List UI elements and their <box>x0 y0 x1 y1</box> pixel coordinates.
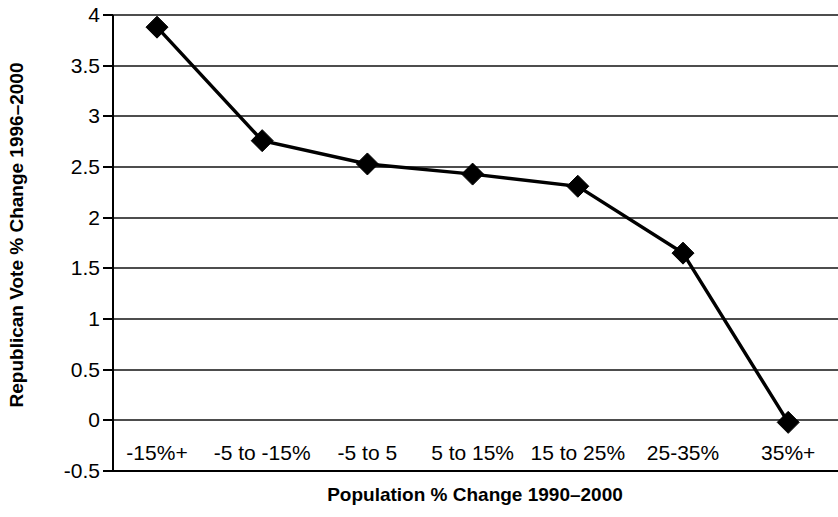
y-axis-tick-label: 3 <box>88 104 100 128</box>
x-axis-title: Population % Change 1990–2000 <box>112 484 838 506</box>
y-axis-tick-label: 4 <box>88 3 100 27</box>
x-axis-tick-labels: -15%+-5 to -15%-5 to 55 to 15%15 to 25%2… <box>112 441 838 471</box>
y-axis-tick-label: 1 <box>88 307 100 331</box>
x-axis-tick-label: -5 to -15% <box>214 441 311 465</box>
data-series <box>112 0 838 517</box>
data-point-marker <box>567 175 589 197</box>
y-axis-tick-label: 1.5 <box>71 256 100 280</box>
data-point-marker <box>356 153 378 175</box>
series-line <box>157 27 788 422</box>
y-axis-tick-label: 0 <box>88 408 100 432</box>
plot-area: -15%+-5 to -15%-5 to 55 to 15%15 to 25%2… <box>112 0 838 517</box>
y-axis-tick-label: 3.5 <box>71 54 100 78</box>
y-axis-tick-label: 0.5 <box>71 358 100 382</box>
x-axis-tick-label: 35%+ <box>761 441 815 465</box>
data-point-marker <box>462 163 484 185</box>
x-axis-tick-label: -15%+ <box>126 441 187 465</box>
y-axis-tick-labels: 43.532.521.510.50-0.5 <box>34 0 108 517</box>
x-axis-tick-label: -5 to 5 <box>338 441 398 465</box>
data-point-marker <box>672 242 694 264</box>
data-point-marker <box>777 411 799 433</box>
x-axis-tick-label: 15 to 25% <box>531 441 626 465</box>
x-axis-tick-label: 5 to 15% <box>431 441 514 465</box>
y-axis-tick-label: -0.5 <box>64 459 100 483</box>
y-axis-title: Republican Vote % Change 1996–2000 <box>0 0 34 470</box>
y-axis-tick-label: 2.5 <box>71 155 100 179</box>
series-markers <box>146 16 799 433</box>
line-chart: Republican Vote % Change 1996–2000 43.53… <box>0 0 838 517</box>
y-axis-tick-label: 2 <box>88 206 100 230</box>
x-axis-tick-label: 25-35% <box>647 441 719 465</box>
y-axis-title-text: Republican Vote % Change 1996–2000 <box>6 63 28 408</box>
